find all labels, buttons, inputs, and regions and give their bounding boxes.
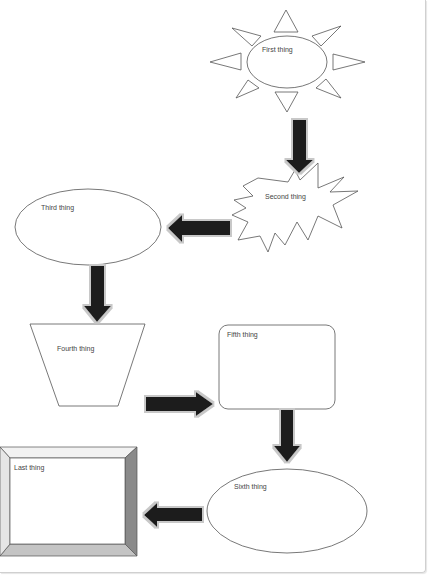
explosion-shape-second[interactable] [232, 163, 358, 252]
sun-shape-first[interactable] [210, 10, 365, 112]
trapezoid-shape-fourth[interactable] [30, 324, 145, 406]
arrow-down-icon [286, 120, 313, 173]
label-fifth: Fifth thing [227, 331, 258, 338]
flowchart-canvas [0, 0, 430, 575]
arrow-down-icon [274, 410, 300, 462]
label-first: First thing [262, 46, 293, 53]
arrow-right-icon [146, 392, 213, 416]
arrow-left-icon [144, 503, 202, 527]
label-second: Second thing [265, 193, 306, 200]
ellipse-shape-sixth[interactable] [207, 469, 367, 553]
arrow-down-icon [84, 266, 111, 322]
label-fourth: Fourth thing [57, 345, 94, 352]
label-sixth: Sixth thing [234, 483, 267, 490]
arrow-left-icon [168, 215, 230, 242]
label-last: Last thing [14, 464, 44, 471]
ellipse-shape-third[interactable] [15, 189, 161, 265]
label-third: Third thing [41, 204, 74, 211]
